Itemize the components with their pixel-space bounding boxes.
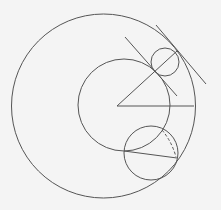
dashed-arc xyxy=(162,130,176,157)
lower-chord xyxy=(124,151,177,158)
inner-tangent-line xyxy=(125,37,177,96)
outer-tangent-line xyxy=(156,25,206,84)
geometry-diagram xyxy=(0,0,221,210)
lower-circle xyxy=(124,126,178,180)
diagram-canvas xyxy=(0,0,221,210)
